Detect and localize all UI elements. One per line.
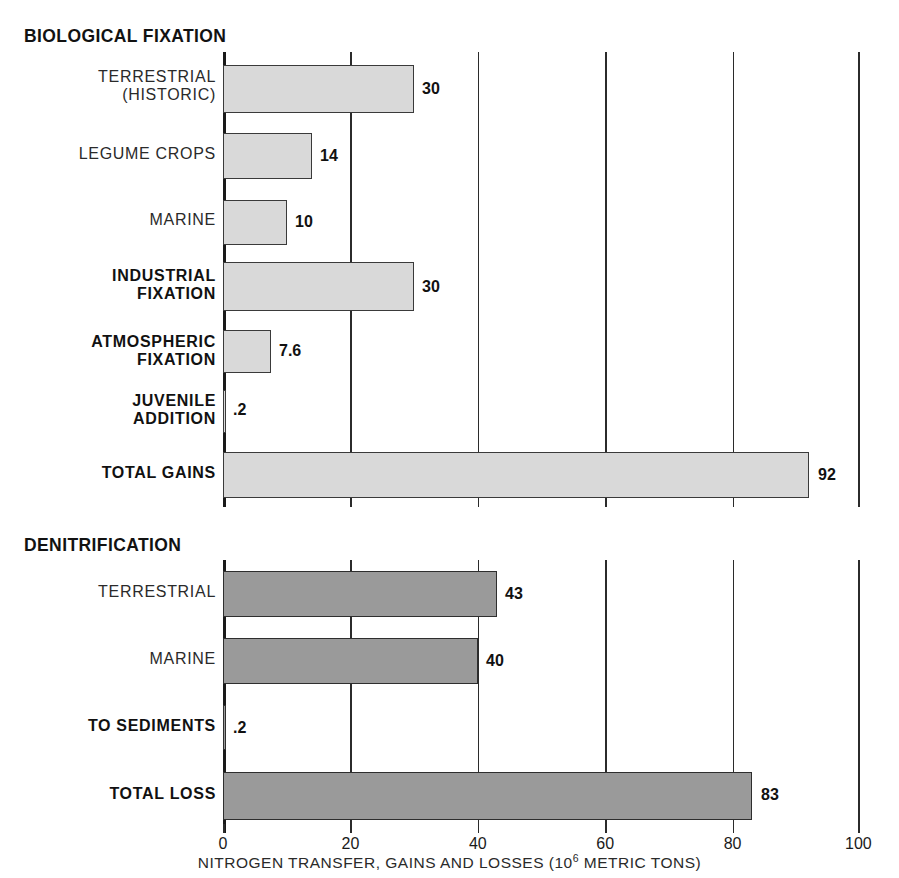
bar-total-loss bbox=[223, 772, 752, 820]
bar-atmospheric-fixation bbox=[223, 330, 271, 373]
x-tick-label: 80 bbox=[724, 835, 742, 853]
bar-row-label: ATMOSPHERIC FIXATION bbox=[0, 333, 216, 369]
bar-row-label: JUVENILE ADDITION bbox=[0, 392, 216, 428]
bar-to-sediments bbox=[223, 705, 226, 750]
bar-row: TOTAL GAINS 92 bbox=[0, 452, 899, 502]
bar-value-label: 30 bbox=[422, 278, 440, 296]
x-axis: 0 20 40 60 80 100 bbox=[223, 824, 860, 825]
bar-juvenile-addition bbox=[223, 390, 226, 433]
bar-legume-crops bbox=[223, 133, 312, 179]
bar-industrial-fixation bbox=[223, 262, 414, 311]
x-tick-0 bbox=[223, 824, 225, 833]
bar-value-label: 40 bbox=[486, 652, 504, 670]
panel-title-biological-fixation: BIOLOGICAL FIXATION bbox=[24, 26, 226, 47]
bar-row-label: TOTAL GAINS bbox=[0, 464, 216, 482]
bar-terrestrial-historic bbox=[223, 65, 414, 113]
x-tick-100 bbox=[858, 824, 860, 833]
bar-marine-denitrification bbox=[223, 638, 478, 684]
bar-row: TERRESTRIAL 43 bbox=[0, 571, 899, 621]
bar-value-label: 83 bbox=[761, 786, 779, 804]
x-axis-title: NITROGEN TRANSFER, GAINS AND LOSSES (106… bbox=[0, 852, 899, 872]
bar-value-label: 14 bbox=[320, 147, 338, 165]
bar-row-label: MARINE bbox=[0, 650, 216, 668]
bar-value-label: 7.6 bbox=[279, 342, 301, 360]
bar-value-label: 30 bbox=[422, 80, 440, 98]
bar-row: LEGUME CROPS 14 bbox=[0, 133, 899, 181]
x-axis-title-prefix: NITROGEN TRANSFER, GAINS AND LOSSES (10 bbox=[198, 854, 573, 871]
x-tick-40 bbox=[478, 824, 480, 833]
bar-row: TO SEDIMENTS .2 bbox=[0, 705, 899, 755]
bar-row-label: TERRESTRIAL bbox=[0, 583, 216, 601]
x-tick-label: 20 bbox=[341, 835, 359, 853]
bar-value-label: .2 bbox=[233, 401, 246, 419]
bar-row-label: INDUSTRIAL FIXATION bbox=[0, 267, 216, 303]
bar-row: MARINE 10 bbox=[0, 200, 899, 248]
bar-row: ATMOSPHERIC FIXATION 7.6 bbox=[0, 330, 899, 378]
bar-row-label: TERRESTRIAL (HISTORIC) bbox=[0, 68, 216, 104]
bar-row: JUVENILE ADDITION .2 bbox=[0, 390, 899, 438]
bar-row: TERRESTRIAL (HISTORIC) 30 bbox=[0, 62, 899, 116]
bar-row-label: TO SEDIMENTS bbox=[0, 717, 216, 735]
bar-value-label: 92 bbox=[818, 466, 836, 484]
bar-row: MARINE 40 bbox=[0, 638, 899, 688]
nitrogen-transfer-bar-chart: BIOLOGICAL FIXATION TERRESTRIAL (HISTORI… bbox=[0, 0, 899, 878]
panel-denitrification: DENITRIFICATION TERRESTRIAL 43 MARINE 40… bbox=[0, 515, 899, 825]
bar-row: TOTAL LOSS 83 bbox=[0, 772, 899, 824]
panel-title-denitrification: DENITRIFICATION bbox=[24, 535, 181, 556]
x-tick-80 bbox=[733, 824, 735, 833]
bar-total-gains bbox=[223, 452, 809, 498]
x-tick-label: 100 bbox=[845, 835, 872, 853]
x-tick-label: 60 bbox=[596, 835, 614, 853]
bar-row-label: TOTAL LOSS bbox=[0, 785, 216, 803]
x-tick-label: 0 bbox=[219, 835, 228, 853]
x-tick-20 bbox=[350, 824, 352, 833]
panel-biological-fixation: BIOLOGICAL FIXATION TERRESTRIAL (HISTORI… bbox=[0, 0, 899, 515]
bar-terrestrial-denitrification bbox=[223, 571, 497, 617]
x-tick-label: 40 bbox=[469, 835, 487, 853]
bar-row: INDUSTRIAL FIXATION 30 bbox=[0, 262, 899, 314]
bar-value-label: 43 bbox=[505, 585, 523, 603]
x-tick-60 bbox=[605, 824, 607, 833]
bar-row-label: LEGUME CROPS bbox=[0, 145, 216, 163]
bar-marine-fixation bbox=[223, 200, 287, 245]
bar-value-label: 10 bbox=[295, 213, 313, 231]
bar-value-label: .2 bbox=[233, 719, 246, 737]
bar-row-label: MARINE bbox=[0, 211, 216, 229]
x-axis-title-suffix: METRIC TONS) bbox=[579, 854, 701, 871]
